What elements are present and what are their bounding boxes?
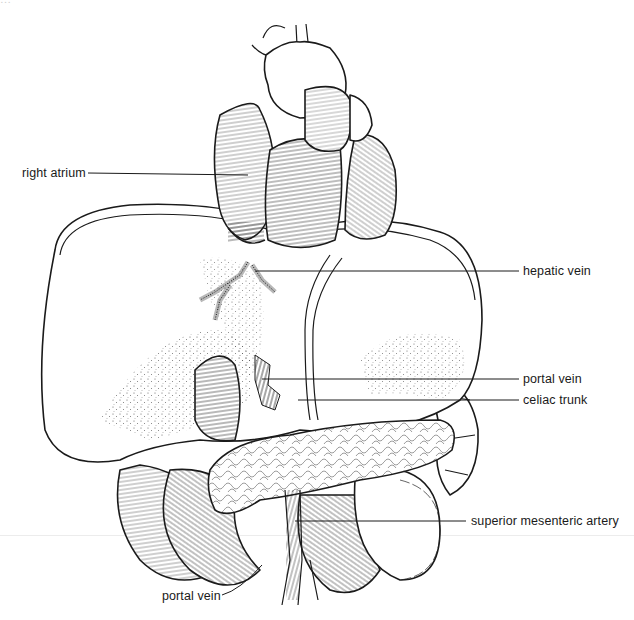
label-portal-vein-lower: portal vein — [162, 589, 221, 603]
heart — [214, 24, 396, 248]
label-portal-vein-upper: portal vein — [523, 372, 582, 386]
label-hepatic-vein: hepatic vein — [523, 264, 591, 278]
label-right-atrium: right atrium — [22, 166, 86, 180]
label-superior-mesenteric-artery: superior mesenteric artery — [471, 514, 619, 528]
label-celiac-trunk: celiac trunk — [523, 393, 587, 407]
